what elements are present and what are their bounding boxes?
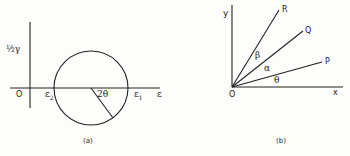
- panel-b-y-axis-label: y: [223, 9, 228, 18]
- diagram-lines: [0, 0, 350, 156]
- panel-b-caption: (b): [276, 138, 286, 145]
- angle-theta-label: θ: [274, 76, 279, 85]
- ray-q: [232, 31, 303, 87]
- panel-a-graphics: [10, 22, 160, 125]
- angle-alpha-label: α: [264, 64, 270, 73]
- panel-a-caption: (a): [83, 138, 93, 145]
- epsilon-2-subscript: 2: [50, 94, 54, 101]
- panel-a-y-axis-label: ½γ: [6, 45, 20, 54]
- epsilon-1-subscript: 1: [139, 94, 143, 101]
- panel-b-x-axis-label: x: [333, 89, 338, 97]
- circle-left-label: ε2: [45, 90, 54, 101]
- ray-q-label: Q: [305, 27, 311, 35]
- panel-a-origin-label: O: [16, 91, 22, 99]
- angle-2theta-label: 2θ: [97, 90, 108, 99]
- panel-b-graphics: [232, 5, 343, 87]
- panel-b-origin-label: O: [229, 91, 235, 99]
- panel-a-x-axis-label: ε: [157, 90, 162, 99]
- angle-beta-label: β: [255, 51, 260, 60]
- ray-r-label: R: [282, 6, 288, 14]
- figure: ½γ O ε2 2θ ε1 ε (a) y R Q P β α θ O x (b…: [0, 0, 350, 156]
- ray-p-label: P: [325, 58, 330, 66]
- circle-right-label: ε1: [134, 90, 143, 101]
